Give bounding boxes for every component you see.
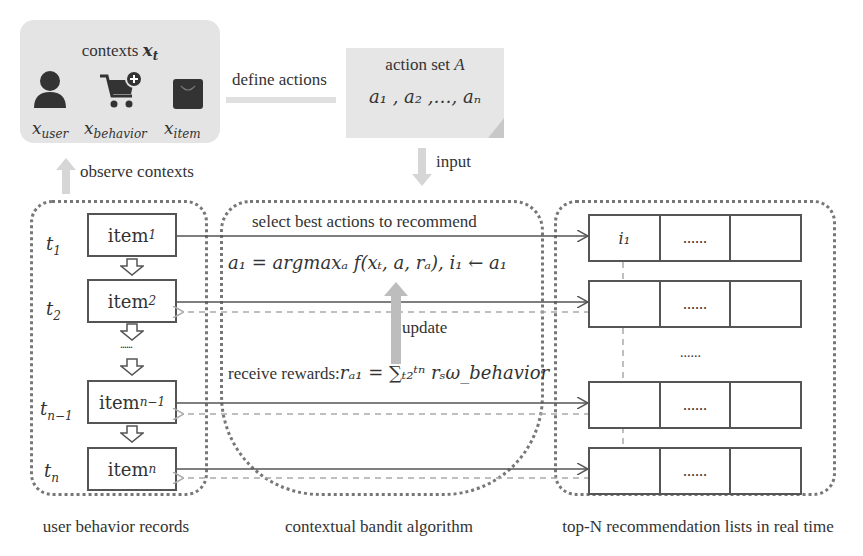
item-2: item2 xyxy=(87,279,177,323)
action-set-values: a₁ , a₂ ,…, aₙ xyxy=(346,86,504,107)
shopping-cart-add-icon xyxy=(98,70,144,112)
contexts-title: contexts xt xyxy=(20,40,220,63)
action-set-title: action set A xyxy=(346,55,504,75)
row-cell xyxy=(731,383,800,427)
define-actions-arrow xyxy=(226,97,336,103)
down-arrow-icon xyxy=(120,358,144,376)
input-label: input xyxy=(436,152,471,172)
action-set-symbol: A xyxy=(454,55,464,74)
x-user-label: xuser xyxy=(32,118,68,141)
recommendation-row-1: i₁ ...... xyxy=(588,214,802,262)
recommendation-caption: top-N recommendation lists in real time xyxy=(548,517,848,537)
item-n: itemn xyxy=(87,447,177,491)
observe-contexts-arrow xyxy=(56,158,76,194)
item-n-1: itemn−1 xyxy=(87,380,177,424)
row-cell xyxy=(731,216,800,260)
rows-ellipsis: ...... xyxy=(680,345,701,361)
down-arrow-icon xyxy=(120,425,144,443)
row-cell xyxy=(590,449,661,493)
row-cell xyxy=(590,282,661,326)
user-behavior-caption: user behavior records xyxy=(20,517,212,537)
row-cell xyxy=(731,449,800,493)
time-label-tn-1: tn−1 xyxy=(40,398,73,423)
input-arrow xyxy=(412,148,432,186)
row-cell: i₁ xyxy=(590,216,661,260)
define-actions-label: define actions xyxy=(232,70,327,90)
recommendation-row-2: ...... xyxy=(588,280,802,328)
bandit-caption: contextual bandit algorithm xyxy=(220,517,538,537)
x-behavior-label: xbehavior xyxy=(84,118,147,141)
bandit-algorithm-container xyxy=(220,200,544,496)
down-arrow-icon xyxy=(120,258,144,276)
row-cell xyxy=(731,282,800,326)
argmax-formula: a₁ = argmaxₐ f(xₜ, a, rₐ), i₁ ← a₁ xyxy=(228,252,507,273)
shopping-bag-icon xyxy=(172,78,204,110)
x-item-label: xitem xyxy=(164,118,201,141)
recommendation-row-4: ...... xyxy=(588,447,802,495)
time-label-t2: t2 xyxy=(46,298,61,323)
row-cell: ...... xyxy=(661,216,732,260)
row-cell xyxy=(590,383,661,427)
update-label: update xyxy=(402,318,447,338)
time-label-tn: tn xyxy=(44,460,59,485)
user-icon xyxy=(32,70,68,110)
down-arrow-icon xyxy=(120,323,144,341)
recommendation-row-3: ...... xyxy=(588,381,802,429)
reward-formula: receive rewards:rₐ₁ = ∑ₜ₂ᵗⁿ rₛω_behavior xyxy=(228,362,549,384)
row-cell: ...... xyxy=(661,449,732,493)
row-cell: ...... xyxy=(661,282,732,326)
select-best-actions-label: select best actions to recommend xyxy=(252,212,477,232)
item-1: item1 xyxy=(87,213,177,257)
time-label-t1: t1 xyxy=(46,233,61,258)
row-cell: ...... xyxy=(661,383,732,427)
observe-contexts-label: observe contexts xyxy=(80,162,194,182)
